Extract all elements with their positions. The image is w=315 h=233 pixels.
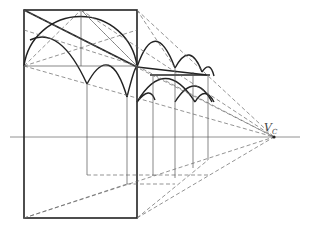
top-back-edge bbox=[137, 67, 207, 75]
left-wall-arch-3 bbox=[127, 67, 137, 97]
left-wall-arch-1 bbox=[30, 37, 87, 84]
left-wall-arch-2 bbox=[87, 65, 127, 97]
perspective-vault-diagram bbox=[0, 0, 315, 233]
vanishing-point-label: VC bbox=[264, 121, 277, 136]
right-arch-1 bbox=[137, 41, 175, 68]
right-arch-2 bbox=[175, 55, 202, 72]
construction-lines bbox=[24, 10, 274, 218]
